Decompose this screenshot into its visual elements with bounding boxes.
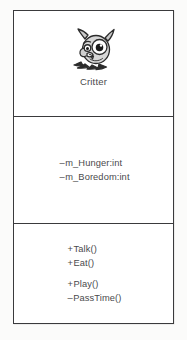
attribute-row: –m_Boredom:int [59, 170, 129, 185]
operation-row: +Play() [68, 277, 99, 292]
visibility-marker: – [59, 156, 64, 171]
operation-signature: PassTime() [73, 293, 121, 303]
attributes-compartment: –m_Hunger:int –m_Boredom:int [14, 117, 173, 224]
diagram-canvas: Critter –m_Hunger:int –m_Boredom:int +Ta… [0, 0, 187, 340]
attribute-signature: m_Hunger:int [65, 158, 122, 168]
visibility-marker: – [68, 291, 73, 306]
attribute-signature: m_Boredom:int [65, 172, 129, 182]
visibility-marker: + [68, 277, 74, 292]
operation-list: +Talk() +Eat() +Play() –PassTime() [68, 242, 122, 306]
uml-class-critter[interactable]: Critter –m_Hunger:int –m_Boredom:int +Ta… [13, 10, 174, 324]
visibility-marker: + [68, 242, 74, 257]
operation-signature: Play() [74, 279, 99, 289]
operation-row: +Talk() [68, 242, 97, 257]
visibility-marker: + [68, 256, 74, 271]
critter-monster-icon [70, 26, 118, 72]
operations-compartment: +Talk() +Eat() +Play() –PassTime() [14, 224, 173, 323]
class-name-compartment: Critter [14, 11, 173, 117]
attribute-row: –m_Hunger:int [59, 156, 122, 171]
operation-signature: Eat() [74, 258, 95, 268]
operation-signature: Talk() [74, 244, 97, 254]
visibility-marker: – [59, 170, 64, 185]
operation-row: –PassTime() [68, 291, 122, 306]
attribute-list: –m_Hunger:int –m_Boredom:int [59, 156, 129, 185]
operation-row: +Eat() [68, 256, 95, 271]
class-name-label: Critter [80, 76, 107, 87]
